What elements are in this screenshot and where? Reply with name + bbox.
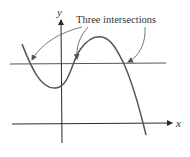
horizontal-line xyxy=(10,63,166,64)
y-axis-label: y xyxy=(56,6,62,18)
y-axis xyxy=(61,20,62,143)
x-axis-label: x xyxy=(175,117,181,129)
annotation-text: Three intersections xyxy=(76,14,156,25)
cubic-curve xyxy=(22,37,146,135)
arrow-to-intersection-1 xyxy=(32,27,82,60)
x-axis xyxy=(12,123,172,124)
arrow-to-intersection-3 xyxy=(128,27,145,62)
intersections-diagram: x y Three intersections xyxy=(0,0,190,157)
